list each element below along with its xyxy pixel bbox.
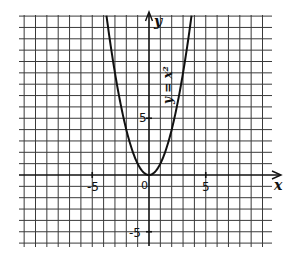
equation-label: y = x²	[161, 66, 175, 105]
y-tick-label-5: 5	[139, 111, 147, 125]
y-axis-label: y	[153, 13, 163, 29]
x-tick-label-neg5: -5	[87, 180, 99, 194]
origin-label: 0	[141, 179, 148, 192]
x-tick-label-5: 5	[202, 180, 210, 194]
x-axis-label: x	[273, 177, 283, 193]
graph-canvas: -5 5 0 5 -5 x y y = x²	[0, 0, 298, 256]
y-tick-label-neg5: -5	[129, 226, 141, 240]
grid-lines	[19, 15, 272, 247]
